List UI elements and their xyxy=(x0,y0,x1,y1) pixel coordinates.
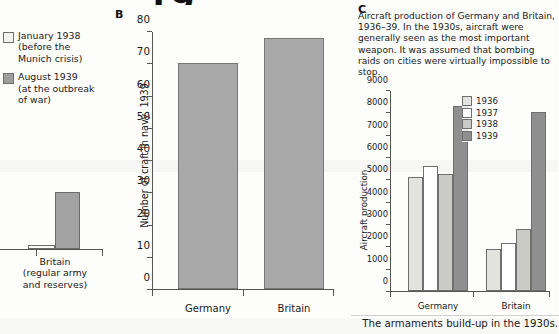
legend-item-label: 1938 xyxy=(476,119,498,129)
y-axis-tick-label: 0 xyxy=(120,271,150,283)
legend-item-label: August 1939 (at the outbreak of war) xyxy=(18,71,94,105)
y-axis-tick xyxy=(147,128,152,129)
bar-germany xyxy=(178,63,238,289)
x-axis-category-label-britain: Britain xyxy=(481,301,551,311)
x-axis-tick xyxy=(390,292,391,297)
legend-swatch-icon xyxy=(462,131,472,141)
bar-germany-1936 xyxy=(408,177,423,291)
y-axis-tick xyxy=(386,246,390,247)
y-axis-tick xyxy=(386,112,390,113)
y-axis-tick xyxy=(147,96,152,97)
legend-item: 1939 xyxy=(462,131,498,141)
x-axis-category-label-britain: Britain xyxy=(254,303,334,314)
x-axis-tick xyxy=(243,290,244,296)
legend-swatch-icon xyxy=(3,73,14,84)
y-axis-tick-label: 40 xyxy=(120,142,150,154)
legend-swatch-icon xyxy=(462,108,472,118)
legend-item-label: 1937 xyxy=(476,108,498,118)
y-axis-tick-label: 30 xyxy=(120,174,150,186)
bar-britain xyxy=(264,38,324,290)
bar-january-1938 xyxy=(28,245,55,249)
y-axis-tick xyxy=(147,63,152,64)
bar-germany-1937 xyxy=(423,166,438,291)
x-axis-category-label-germany: Germany xyxy=(168,303,248,314)
legend-item-label: January 1938 (before the Munich crisis) xyxy=(18,30,82,64)
y-axis-tick xyxy=(386,179,390,180)
x-axis-category-label: Britain (regular army and reserves) xyxy=(0,256,110,290)
y-axis-line xyxy=(152,32,153,290)
x-axis-tick xyxy=(152,290,153,296)
x-axis-tick xyxy=(473,292,474,297)
panel-c-description: Aircraft production of Germany and Brita… xyxy=(358,11,558,78)
y-axis-tick-label: 10 xyxy=(120,239,150,251)
y-axis-tick xyxy=(147,31,152,32)
y-axis-tick-label: 7000 xyxy=(360,120,388,130)
x-axis-category-label-germany: Germany xyxy=(403,301,473,311)
panel-c: C Aircraft production of Germany and Bri… xyxy=(350,0,558,334)
legend-item: August 1939 (at the outbreak of war) xyxy=(3,71,103,105)
y-axis-tick-label: 5000 xyxy=(360,164,388,174)
y-axis-tick-label: 0 xyxy=(360,276,388,286)
panel-c-legend: 1936 1937 1938 1939 xyxy=(462,96,498,142)
y-axis-tick-label: 70 xyxy=(120,45,150,57)
bar-britain-1937 xyxy=(501,243,516,291)
legend-item: 1938 xyxy=(462,119,498,129)
y-axis-line xyxy=(390,91,391,292)
y-axis-tick-label: 2000 xyxy=(360,231,388,241)
y-axis-tick xyxy=(147,160,152,161)
bar-britain-1936 xyxy=(486,249,501,291)
legend-swatch-icon xyxy=(462,96,472,106)
panel-b-y-axis-label: Number of craft in navy, 1939 xyxy=(139,66,150,246)
y-axis-tick xyxy=(147,192,152,193)
y-axis-tick xyxy=(386,135,390,136)
caption-divider xyxy=(351,315,559,316)
x-axis-line xyxy=(0,249,103,250)
y-axis-tick-label: 20 xyxy=(120,207,150,219)
y-axis-tick-label: 50 xyxy=(120,110,150,122)
y-axis-tick-label: 4000 xyxy=(360,187,388,197)
y-axis-tick-label: 60 xyxy=(120,78,150,90)
panel-a-legend: January 1938 (before the Munich crisis) … xyxy=(3,30,103,112)
legend-item-label: 1936 xyxy=(476,96,498,106)
bar-britain-1939 xyxy=(531,112,546,291)
panel-a: January 1938 (before the Munich crisis) … xyxy=(0,0,110,334)
legend-item: 1936 xyxy=(462,96,498,106)
panel-b: B Number of craft in navy, 1939 0 10 20 … xyxy=(112,0,348,334)
x-axis-tick xyxy=(333,290,334,296)
panel-b-plot: 0 10 20 30 40 50 60 70 80 Germany Brita xyxy=(152,32,334,290)
legend-swatch-icon xyxy=(3,32,14,43)
y-axis-tick xyxy=(386,90,390,91)
y-axis-tick xyxy=(386,224,390,225)
figure-caption: The armaments build-up in the 1930s. xyxy=(358,318,558,329)
y-axis-tick-label: 80 xyxy=(120,13,150,25)
y-axis-tick xyxy=(386,202,390,203)
y-axis-tick xyxy=(386,269,390,270)
legend-item: 1937 xyxy=(462,108,498,118)
y-axis-tick-label: 9000 xyxy=(360,75,388,85)
bar-germany-1938 xyxy=(438,174,453,291)
bar-august-1939 xyxy=(55,192,80,249)
panel-a-plot: Britain (regular army and reserves) xyxy=(0,150,110,290)
y-axis-tick xyxy=(147,225,152,226)
y-axis-tick xyxy=(386,157,390,158)
legend-item: January 1938 (before the Munich crisis) xyxy=(3,30,103,64)
x-axis-tick xyxy=(549,292,550,297)
y-axis-tick-label: 1000 xyxy=(360,254,388,264)
legend-swatch-icon xyxy=(462,119,472,129)
y-axis-tick-label: 3000 xyxy=(360,209,388,219)
bar-britain-1938 xyxy=(516,229,531,292)
x-axis-line xyxy=(390,291,550,292)
y-axis-tick xyxy=(147,257,152,258)
y-axis-tick-label: 6000 xyxy=(360,142,388,152)
legend-item-label: 1939 xyxy=(476,131,498,141)
y-axis-tick-label: 8000 xyxy=(360,97,388,107)
